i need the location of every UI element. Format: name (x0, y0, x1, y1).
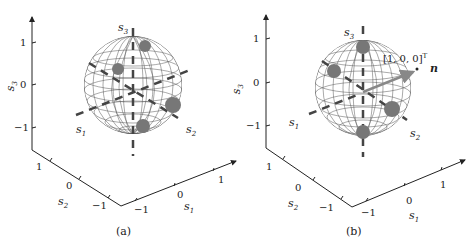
s2-axis (32, 150, 121, 206)
tick-s1-0: 0 (177, 190, 183, 200)
tick-s3-0: 0 (20, 80, 26, 90)
tick-s2-1: 1 (36, 162, 42, 172)
tick-s3-neg1: −1 (246, 121, 261, 131)
tick-s1-neg1: −1 (361, 208, 376, 218)
sphere-label-s1: s1 (289, 117, 299, 131)
caption-b: (b) (346, 226, 362, 237)
sphere-plot-b (237, 0, 474, 244)
sphere-label-s2: s2 (410, 128, 420, 142)
panel-b: s3 s1 s2 [1, 0, 0]T n s3 1 0 −1 1 0 −1 s… (237, 0, 474, 244)
sphere-axes-dashed (76, 28, 190, 156)
tick-s1-1: 1 (218, 175, 224, 185)
normal-point (416, 68, 419, 71)
axis-label-s3: s3 (5, 81, 19, 91)
tick-s2-0: 0 (66, 181, 72, 191)
sphere-label-s3: s3 (344, 27, 354, 41)
tick-s1-1: 1 (440, 180, 446, 190)
vector-annotation: [1, 0, 0]T (383, 53, 427, 64)
sphere-label-s3: s3 (118, 22, 128, 36)
axis-label-s2: s2 (58, 196, 68, 210)
tick-s2-neg1: −1 (92, 201, 107, 211)
axis-label-s3: s3 (231, 84, 245, 94)
tick-s1-0: 0 (406, 196, 412, 206)
normal-label-n: n (430, 63, 438, 74)
tick-s3-neg1: −1 (14, 123, 29, 133)
axis-label-s1: s1 (184, 201, 194, 215)
sphere-label-s2: s2 (186, 124, 196, 138)
tick-s2-0: 0 (295, 183, 301, 193)
tick-s3-0: 0 (253, 78, 259, 88)
tick-s1-neg1: −1 (134, 205, 149, 215)
tick-s2-neg1: −1 (319, 203, 334, 213)
tick-s2-1: 1 (266, 162, 272, 172)
s2-axis (266, 148, 352, 207)
sphere-plot-a (0, 0, 237, 244)
axis-label-s2: s2 (288, 198, 298, 212)
panel-a: s3 s1 s2 s3 1 0 −1 1 0 −1 s2 −1 0 1 s1 (… (0, 0, 237, 244)
tick-s3-1: 1 (253, 34, 259, 44)
axis-label-s1: s1 (409, 210, 419, 224)
sphere-label-s1: s1 (76, 124, 86, 138)
caption-a: (a) (116, 226, 131, 237)
tick-s3-1: 1 (20, 38, 26, 48)
